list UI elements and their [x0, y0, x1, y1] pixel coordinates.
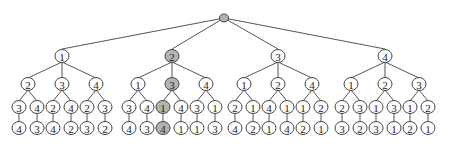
- tree-node: 1: [246, 101, 260, 114]
- tree-edge: [96, 90, 105, 101]
- node-label: 1: [373, 102, 379, 114]
- tree-edge: [163, 90, 172, 101]
- tree-edge: [19, 90, 28, 101]
- tree-edge: [197, 90, 206, 101]
- tree-node: 2: [64, 122, 78, 135]
- tree-node: 4: [12, 122, 26, 135]
- tree-node: 3: [412, 78, 426, 91]
- node-label: 1: [135, 79, 141, 91]
- node-label: 4: [382, 51, 388, 63]
- node-label: 1: [425, 123, 431, 135]
- tree-node: 2: [271, 78, 285, 91]
- node-label: 2: [84, 102, 90, 114]
- tree-edge: [87, 90, 96, 101]
- tree-node: 1: [280, 101, 294, 114]
- tree-node: 2: [21, 78, 35, 91]
- node-label: 3: [373, 123, 379, 135]
- tree-node: 4: [228, 122, 242, 135]
- tree-edge: [376, 90, 385, 101]
- tree-node: 4: [140, 101, 154, 114]
- node-label: 3: [59, 79, 65, 91]
- tree-node: 2: [46, 101, 60, 114]
- tree-node: 1: [262, 122, 276, 135]
- node-label: 4: [68, 102, 74, 114]
- tree-node: 1: [369, 101, 383, 114]
- tree-edge: [410, 90, 419, 101]
- tree-node: 1: [296, 101, 310, 114]
- tree-node: 3: [30, 122, 44, 135]
- node-label: 2: [382, 79, 388, 91]
- tree-node: 2: [98, 122, 112, 135]
- tree-node: 1: [344, 78, 358, 91]
- node-label: 2: [300, 123, 306, 135]
- node-label: 4: [309, 79, 315, 91]
- node-label: 4: [284, 123, 290, 135]
- tree-node: 1: [421, 122, 435, 135]
- tree-node: 3: [122, 101, 136, 114]
- tree-node: 1: [190, 122, 204, 135]
- node-label: 2: [68, 123, 74, 135]
- tree-canvas: 1234433244242332213443314414311331241224…: [0, 0, 457, 146]
- tree-edge: [172, 62, 206, 78]
- node-label: 2: [318, 102, 324, 114]
- tree-node: 2: [165, 50, 179, 63]
- tree-node: 3: [98, 101, 112, 114]
- node-label: 4: [232, 123, 238, 135]
- tree-node: 4: [199, 78, 213, 91]
- node-label: 2: [25, 79, 31, 91]
- tree-node: 1: [237, 78, 251, 91]
- tree-edge: [312, 90, 321, 101]
- tree-node: 1: [314, 122, 328, 135]
- tree-edge: [385, 62, 419, 78]
- node-label: 2: [407, 123, 413, 135]
- tree-node: 2: [80, 101, 94, 114]
- tree-node: 2: [314, 101, 328, 114]
- tree-edge: [62, 90, 71, 101]
- tree-edge: [62, 18, 224, 49]
- node-label: 1: [284, 102, 290, 114]
- tree-edge: [342, 90, 351, 101]
- tree-node: 1: [403, 101, 417, 114]
- node-label: 4: [160, 123, 166, 135]
- tree-edge: [129, 90, 138, 101]
- tree-node: 2: [353, 122, 367, 135]
- tree-node: 2: [228, 101, 242, 114]
- tree-node: 2: [378, 78, 392, 91]
- node-label: 1: [348, 79, 354, 91]
- node-label: 4: [178, 102, 184, 114]
- node-label: 2: [102, 123, 108, 135]
- tree-node: 1: [174, 122, 188, 135]
- node-label: 1: [212, 102, 218, 114]
- tree-node: [220, 14, 229, 22]
- node-label: 3: [16, 102, 22, 114]
- tree-node: 2: [246, 122, 260, 135]
- tree-node: 4: [156, 122, 170, 135]
- tree-edge: [235, 90, 244, 101]
- node-label: 2: [232, 102, 238, 114]
- tree-edge: [62, 62, 96, 78]
- tree-edge: [172, 90, 181, 101]
- tree-node: 4: [89, 78, 103, 91]
- node-label: 3: [126, 102, 132, 114]
- tree-edge: [28, 90, 37, 101]
- node-label: 2: [425, 102, 431, 114]
- tree-node: 3: [271, 50, 285, 63]
- tree-node: 1: [156, 101, 170, 114]
- tree-node: 4: [378, 50, 392, 63]
- tree-edge: [303, 90, 312, 101]
- tree-edge: [419, 90, 428, 101]
- node-label: 4: [203, 79, 209, 91]
- tree-node: 1: [55, 50, 69, 63]
- node-label: 3: [169, 79, 175, 91]
- node-label: 2: [250, 123, 256, 135]
- tree-node: 3: [190, 101, 204, 114]
- tree-node: 4: [122, 122, 136, 135]
- tree-node: 4: [262, 101, 276, 114]
- node-label: 3: [34, 123, 40, 135]
- node-label: 4: [144, 102, 150, 114]
- tree-edge: [244, 90, 253, 101]
- tree-nodes: 1234433244242332213443314414311331241224…: [12, 14, 435, 135]
- tree-node: 1: [387, 122, 401, 135]
- tree-edge: [385, 90, 394, 101]
- tree-edge: [278, 62, 312, 78]
